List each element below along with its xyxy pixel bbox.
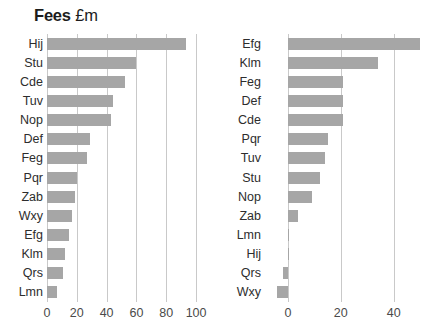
- bar-row: Pqr: [211, 130, 422, 149]
- category-label: Zab: [21, 190, 43, 203]
- bar: [47, 267, 63, 279]
- category-label: Qrs: [23, 267, 43, 280]
- x-tick-label: 60: [129, 306, 143, 320]
- chart-title-left-strong: Fees: [34, 6, 71, 24]
- bar: [47, 38, 186, 50]
- category-label: Nop: [20, 114, 43, 127]
- bar: [288, 133, 328, 145]
- x-tick-label: 0: [284, 306, 291, 320]
- bar: [47, 229, 69, 241]
- bar: [47, 152, 87, 164]
- category-label: Lmn: [19, 286, 43, 299]
- bar: [47, 57, 136, 69]
- chart-title-left: Fees £m: [34, 6, 98, 25]
- bar-row: Klm: [211, 53, 422, 72]
- bar-row: Feg: [211, 72, 422, 91]
- bar-row: Def: [0, 130, 211, 149]
- bar-row: Qrs: [211, 264, 422, 283]
- bar: [47, 114, 111, 126]
- bar-row: Stu: [211, 168, 422, 187]
- bar: [288, 76, 344, 88]
- category-label: Hij: [246, 248, 261, 261]
- bar: [288, 210, 299, 222]
- category-label: Hij: [28, 37, 43, 50]
- category-label: Klm: [239, 56, 261, 69]
- category-label: Qrs: [241, 267, 261, 280]
- bar-row: Efg: [211, 34, 422, 53]
- bar-row: Nop: [211, 187, 422, 206]
- plot-area-left: HijStuCdeTuvNopDefFegPqrZabWxyEfgKlmQrsL…: [0, 34, 211, 302]
- chart-panel-fees-growth: Fees – growth in year % EfgKlmFegDefCdeP…: [211, 0, 422, 335]
- category-label: Stu: [24, 56, 43, 69]
- bar: [47, 210, 72, 222]
- bar-row: Tuv: [211, 149, 422, 168]
- bar-row: Klm: [0, 245, 211, 264]
- category-label: Zab: [239, 210, 261, 223]
- bar: [288, 229, 289, 241]
- bar-row: Stu: [0, 53, 211, 72]
- category-label: Def: [24, 133, 43, 146]
- x-tick-label: 20: [334, 306, 348, 320]
- bar: [288, 248, 289, 260]
- category-label: Efg: [242, 37, 261, 50]
- bar: [47, 286, 57, 298]
- category-label: Wxy: [19, 210, 43, 223]
- bar: [288, 191, 312, 203]
- category-label: Feg: [239, 76, 261, 89]
- category-label: Nop: [238, 190, 261, 203]
- x-tick-label: 40: [387, 306, 401, 320]
- bar: [47, 95, 113, 107]
- bar-rows-left: HijStuCdeTuvNopDefFegPqrZabWxyEfgKlmQrsL…: [0, 34, 211, 302]
- bar: [47, 76, 125, 88]
- category-label: Cde: [238, 114, 261, 127]
- category-label: Feg: [21, 152, 43, 165]
- bar-row: Hij: [0, 34, 211, 53]
- bar-row: Cde: [211, 111, 422, 130]
- bar-row: Lmn: [211, 225, 422, 244]
- plot-area-right: EfgKlmFegDefCdePqrTuvStuNopZabLmnHijQrsW…: [211, 34, 422, 302]
- bar: [288, 57, 378, 69]
- category-label: Cde: [20, 76, 43, 89]
- bar-row: Feg: [0, 149, 211, 168]
- category-label: Wxy: [237, 286, 261, 299]
- bar: [47, 248, 65, 260]
- bar-row: Cde: [0, 72, 211, 91]
- bar: [288, 38, 420, 50]
- bar-row: Tuv: [0, 91, 211, 110]
- bar-row: Wxy: [211, 283, 422, 302]
- bar: [47, 191, 75, 203]
- category-label: Stu: [242, 171, 261, 184]
- x-tick-label: 40: [100, 306, 114, 320]
- category-label: Lmn: [237, 229, 261, 242]
- bar-row: Nop: [0, 111, 211, 130]
- bar: [288, 172, 320, 184]
- bar: [277, 286, 288, 298]
- bar-row: Efg: [0, 225, 211, 244]
- x-axis-right: 020406: [211, 302, 422, 326]
- x-tick-label: 0: [44, 306, 51, 320]
- bar-row: Hij: [211, 245, 422, 264]
- bar-row: Zab: [0, 187, 211, 206]
- bar: [288, 152, 325, 164]
- bar-row: Def: [211, 91, 422, 110]
- bar: [283, 267, 288, 279]
- bar-row: Wxy: [0, 206, 211, 225]
- category-label: Pqr: [242, 133, 261, 146]
- x-tick-label: 20: [70, 306, 84, 320]
- x-axis-left: 020406080100: [0, 302, 211, 326]
- x-tick-label: 80: [159, 306, 173, 320]
- category-label: Klm: [21, 248, 43, 261]
- category-label: Tuv: [23, 95, 43, 108]
- bar: [47, 172, 77, 184]
- bar-row: Zab: [211, 206, 422, 225]
- bar-row: Qrs: [0, 264, 211, 283]
- category-label: Pqr: [24, 171, 43, 184]
- chart-title-left-light: £m: [75, 6, 98, 24]
- category-label: Tuv: [241, 152, 261, 165]
- bar-row: Pqr: [0, 168, 211, 187]
- chart-panel-fees: Fees £m HijStuCdeTuvNopDefFegPqrZabWxyEf…: [0, 0, 211, 335]
- bar-row: Lmn: [0, 283, 211, 302]
- x-tick-label: 100: [186, 306, 207, 320]
- dual-bar-chart-figure: Fees £m HijStuCdeTuvNopDefFegPqrZabWxyEf…: [0, 0, 422, 335]
- category-label: Efg: [24, 229, 43, 242]
